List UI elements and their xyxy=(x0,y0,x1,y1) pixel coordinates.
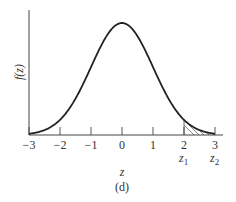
x-axis-tick-labels: −3−2−10123 xyxy=(23,138,218,152)
x-tick-label: 1 xyxy=(150,138,156,152)
x-tick-label: −2 xyxy=(54,138,67,152)
x-tick-label: −3 xyxy=(23,138,36,152)
y-axis-label: f(z) xyxy=(12,64,26,80)
z2-label: z2 xyxy=(209,151,219,167)
x-tick-label: 3 xyxy=(212,138,218,152)
x-axis-label: z xyxy=(119,165,125,179)
density-curve xyxy=(29,23,215,134)
normal-density-chart: −3−2−10123 f(z) z1 z2 z (d) xyxy=(0,0,236,202)
x-tick-label: 0 xyxy=(119,138,125,152)
x-tick-label: −1 xyxy=(85,138,98,152)
x-tick-label: 2 xyxy=(181,138,187,152)
figure-caption: (d) xyxy=(115,180,129,194)
z1-label: z1 xyxy=(178,151,188,167)
